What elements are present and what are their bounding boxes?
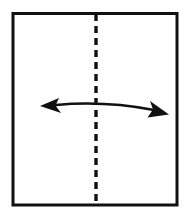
- origami-fold-diagram: Paper with vertical center fold line and…: [0, 0, 195, 218]
- fold-diagram-container: Paper with vertical center fold line and…: [0, 0, 195, 218]
